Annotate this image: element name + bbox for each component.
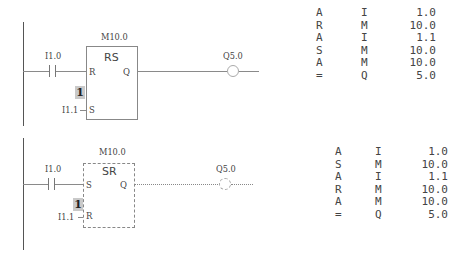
power-rail [23,138,24,250]
pin-set: S [86,179,92,191]
contact-left-bar-icon [49,65,50,77]
pin-reset: R [89,66,95,78]
pin-output: Q [123,66,130,78]
wire-dotted [134,184,220,185]
pin-output: Q [120,179,127,191]
block-type: SR [102,166,117,178]
stl-row: =Q5.0 [316,70,436,83]
wire [80,110,86,111]
contact-left-bar-icon [48,178,49,190]
reset-input-address: I1.1 [58,211,74,223]
contact-address: I1.0 [45,163,61,175]
set-input-address: I1.1 [62,104,78,116]
block-type: RS [104,52,119,64]
coil-icon[interactable] [227,65,239,77]
constant-one-badge: 1 [73,198,83,211]
contact-address: I1.0 [45,50,61,62]
stl-row: AI1.1 [335,171,448,184]
stl-row: =Q5.0 [335,209,448,222]
stl-row: AI1.0 [316,7,436,20]
wire [23,71,49,72]
wire [55,184,83,185]
wire [23,184,49,185]
coil-address: Q5.0 [216,163,236,175]
constant-one-badge: 1 [75,86,85,99]
block-address: M10.0 [101,31,128,43]
wire [78,217,83,218]
pin-reset: R [86,210,92,222]
stl-row: AI1.0 [335,146,448,159]
wire [56,71,86,72]
wire-dotted [231,184,253,185]
coil-icon[interactable] [219,178,231,190]
stl-row: AI1.1 [316,32,436,45]
wire [137,71,227,72]
block-address: M10.0 [99,146,126,158]
stl-listing: AI1.0 SM10.0 AI1.1 RM10.0 AM10.0 =Q5.0 [335,146,448,222]
pin-set: S [89,104,95,116]
stl-listing: AI1.0 RM10.0 AI1.1 SM10.0 AM10.0 =Q5.0 [316,7,436,83]
power-rail [23,22,24,126]
coil-address: Q5.0 [223,50,243,62]
wire [239,71,259,72]
